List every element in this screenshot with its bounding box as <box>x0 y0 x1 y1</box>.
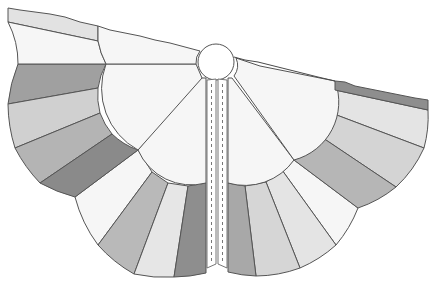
right-placket <box>218 79 227 268</box>
cape-pattern-diagram <box>0 0 433 290</box>
left-placket <box>207 79 216 268</box>
left-panel <box>8 8 206 277</box>
center-front-plackets <box>207 79 227 268</box>
right-panel <box>228 57 428 276</box>
left-shoulder-block <box>98 26 200 64</box>
left-upper-blocks <box>8 8 200 64</box>
neckline-hole <box>198 44 234 80</box>
